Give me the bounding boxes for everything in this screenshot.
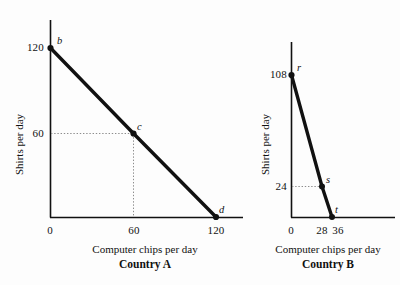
- country-a-point-c-marker: [130, 130, 136, 136]
- economics-ppf-figure: Shirts per day 120 60 0 60 120 b c d Com…: [0, 0, 400, 285]
- country-a-caption: Country A: [45, 258, 245, 271]
- country-b-point-r-marker: [288, 72, 294, 78]
- country-b-x-axis-title: Computer chips per day: [263, 243, 393, 256]
- country-b-point-s-marker: [319, 184, 325, 190]
- country-b-y-axis-title: Shirts per day: [260, 114, 271, 175]
- chart-panel-country-b: Shirts per day 108 24 0 28 36 r s t Comp…: [250, 0, 400, 285]
- country-a-point-b-marker: [47, 45, 53, 51]
- country-b-point-r-label: r: [297, 63, 301, 74]
- country-b-y-tick-24: 24: [250, 181, 287, 192]
- country-a-point-b-label: b: [57, 36, 62, 47]
- country-a-y-axis-title: Shirts per day: [14, 114, 25, 175]
- country-b-y-tick-108: 108: [250, 69, 287, 80]
- country-a-x-tick-0: 0: [36, 225, 64, 236]
- country-a-x-axis-title: Computer chips per day: [45, 243, 245, 256]
- country-b-x-tick-36: 36: [325, 225, 351, 236]
- chart-panel-country-a: Shirts per day 120 60 0 60 120 b c d Com…: [0, 0, 250, 285]
- country-b-point-s-label: s: [326, 175, 330, 186]
- country-a-point-c-label: c: [137, 122, 142, 133]
- country-b-x-tick-0: 0: [278, 225, 304, 236]
- country-b-point-t-label: t: [335, 205, 338, 216]
- country-a-point-d-label: d: [219, 205, 224, 216]
- country-a-y-tick-60: 60: [8, 128, 44, 139]
- country-a-x-tick-60: 60: [120, 225, 148, 236]
- country-b-ppf-line: [292, 75, 333, 217]
- country-a-y-tick-120: 120: [8, 42, 44, 53]
- country-b-caption: Country B: [263, 258, 393, 271]
- country-a-x-tick-120: 120: [201, 225, 231, 236]
